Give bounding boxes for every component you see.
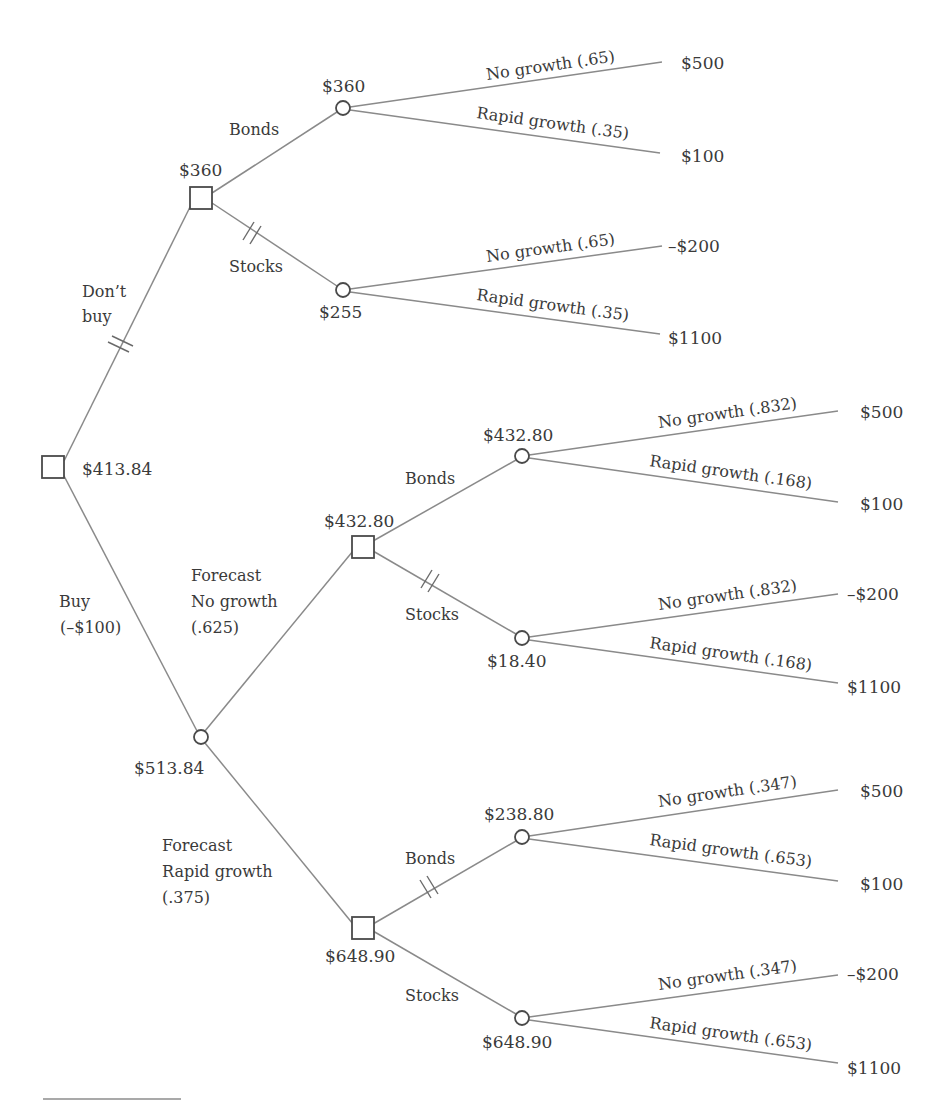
branch-label-forecast-ng-2: No growth: [191, 592, 278, 611]
decision-node-root: [42, 456, 64, 478]
branch-label-forecast-ng-1: Forecast: [191, 566, 262, 585]
chance-node-frg-stocks: [515, 1011, 529, 1025]
chance-node-fng-bonds: [515, 449, 529, 463]
fng-bonds-value: $432.80: [483, 425, 553, 445]
frg-decision-value: $648.90: [325, 946, 395, 966]
branch-label-stocks: Stocks: [229, 257, 283, 276]
outcome-label: Rapid growth (.653): [648, 830, 813, 871]
chance-node-fng-stocks: [515, 631, 529, 645]
payoff: $100: [860, 494, 903, 514]
decision-node-dont-buy: [190, 187, 212, 209]
chance-node-dontbuy-stocks: [336, 283, 350, 297]
payoff: $1100: [668, 328, 722, 348]
outcome-label: No growth (.347): [657, 956, 798, 994]
branch-label-buy: Buy: [59, 592, 90, 611]
dontbuy-stocks-value: $255: [319, 302, 362, 322]
outcome-label: Rapid growth (.35): [475, 103, 630, 143]
payoff: –$200: [847, 964, 899, 984]
decision-node-forecast-no-growth: [352, 536, 374, 558]
branch-label-fng-bonds: Bonds: [405, 469, 455, 488]
payoff: –$200: [668, 236, 720, 256]
outcome-label: No growth (.65): [485, 229, 616, 266]
edge-forecast-rapid-growth: [205, 743, 353, 924]
branch-label-frg-bonds: Bonds: [405, 849, 455, 868]
buy-chance-value: $513.84: [134, 758, 204, 778]
decision-node-forecast-rapid-growth: [352, 917, 374, 939]
branch-label-bonds: Bonds: [229, 120, 279, 139]
payoff: $500: [860, 402, 903, 422]
prune-mark-dont-buy: [108, 336, 133, 352]
payoff: $1100: [847, 677, 901, 697]
outcome-label: No growth (.832): [657, 576, 798, 614]
branch-label-buy-cost: (–$100): [60, 618, 121, 637]
payoff: $500: [860, 781, 903, 801]
outcome-label: No growth (.347): [657, 772, 798, 811]
branch-label-dont-buy: Don’t: [82, 282, 127, 301]
fng-stocks-value: $18.40: [487, 651, 546, 671]
branch-label-forecast-rg-1: Forecast: [162, 836, 233, 855]
branch-label-fng-stocks: Stocks: [405, 605, 459, 624]
decision-tree: $413.84 $360 $360 $255 $513.84 $432.80 $…: [0, 0, 947, 1101]
payoff: –$200: [847, 584, 899, 604]
frg-bonds-value: $238.80: [484, 804, 554, 824]
payoff: $100: [681, 146, 724, 166]
payoff: $100: [860, 874, 903, 894]
branch-label-forecast-rg-2: Rapid growth: [162, 862, 273, 881]
dont-buy-decision-value: $360: [179, 160, 222, 180]
chance-node-frg-bonds: [515, 830, 529, 844]
branch-label-dont-buy-2: buy: [82, 307, 112, 326]
chance-node-dontbuy-bonds: [336, 101, 350, 115]
branch-label-forecast-ng-3: (.625): [191, 618, 239, 637]
chance-node-buy: [194, 730, 208, 744]
fng-decision-value: $432.80: [324, 511, 394, 531]
payoff: $500: [681, 53, 724, 73]
frg-stocks-value: $648.90: [482, 1032, 552, 1052]
edge-dont-buy: [64, 205, 191, 461]
branch-label-frg-stocks: Stocks: [405, 986, 459, 1005]
root-value: $413.84: [82, 459, 152, 479]
branch-label-forecast-rg-3: (.375): [162, 888, 210, 907]
payoff: $1100: [847, 1058, 901, 1078]
dontbuy-bonds-value: $360: [322, 76, 365, 96]
